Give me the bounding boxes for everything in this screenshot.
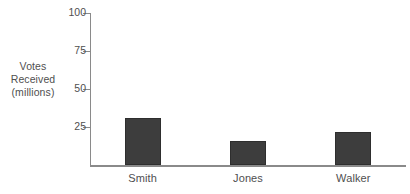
x-axis-line: [90, 165, 406, 167]
y-tick-label: 100: [68, 6, 86, 19]
bar-smith[interactable]: [125, 118, 161, 165]
bar-chart-figure: Votes Received (millions) 100 75 50 25: [0, 0, 410, 194]
bar-group-jones: [230, 13, 266, 165]
bar-walker[interactable]: [335, 132, 371, 165]
category-label-jones: Jones: [195, 171, 300, 185]
y-axis-title-line-3: (millions): [4, 86, 62, 99]
y-axis-title: Votes Received (millions): [4, 60, 62, 99]
bar-group-walker: [335, 13, 371, 165]
y-axis-title-line-2: Received: [4, 73, 62, 86]
bar-jones[interactable]: [230, 141, 266, 165]
category-label-smith: Smith: [90, 171, 195, 185]
y-tick-label: 75: [74, 44, 86, 57]
y-tick-label: 25: [74, 120, 86, 133]
plot-area: 100 75 50 25 Smith Jones Walker: [90, 13, 406, 166]
y-tick-label: 50: [74, 82, 86, 95]
y-axis-title-line-1: Votes: [4, 60, 62, 73]
category-label-walker: Walker: [301, 171, 406, 185]
bar-group-smith: [125, 13, 161, 165]
